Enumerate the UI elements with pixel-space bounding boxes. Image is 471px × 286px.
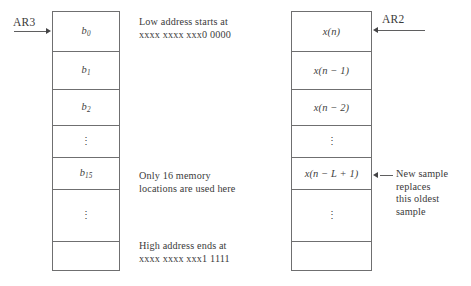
memory-cell-label: b1 — [82, 64, 91, 77]
memory-cell-ellipsis-lower: ⋮ — [53, 190, 119, 242]
memory-cell-b15: b15 — [53, 158, 119, 190]
pointer-label-ar3: AR3 — [13, 16, 35, 28]
pointer-label-ar2: AR2 — [382, 13, 404, 25]
vertical-ellipsis-icon: ⋮ — [81, 211, 91, 218]
memory-cell-subscript: 15 — [85, 172, 92, 180]
note-line: High address ends at — [139, 240, 230, 253]
memory-cell-b0: b0 — [53, 12, 119, 52]
memory-table-ar2: x(n) x(n − 1) x(n − 2) ⋮ x(n − L + 1) ⋮ — [291, 11, 372, 271]
sample-cell-x-n-minus-2: x(n − 2) — [292, 90, 371, 126]
memory-cell-subscript: 2 — [87, 106, 91, 114]
memory-cell-subscript: 1 — [87, 69, 91, 77]
arrow-left-icon — [373, 172, 378, 178]
note-line: sample — [396, 206, 462, 219]
diagram-canvas: b0 b1 b2 ⋮ b15 ⋮ AR3 Low address starts … — [0, 0, 471, 286]
memory-cell-subscript: 0 — [87, 30, 91, 38]
sample-cell-x-n-minus-1: x(n − 1) — [292, 52, 371, 90]
memory-table-ar3: b0 b1 b2 ⋮ b15 ⋮ — [52, 11, 120, 271]
note-new-sample-replaces-oldest: New sample replaces this oldest sample — [396, 168, 462, 218]
memory-cell-label: b0 — [82, 25, 91, 38]
note-only-16-locations: Only 16 memory locations are used here — [139, 170, 236, 195]
note-line: Low address starts at — [139, 16, 231, 29]
memory-cell-label: b2 — [82, 101, 91, 114]
note-line: Only 16 memory — [139, 170, 236, 183]
vertical-ellipsis-icon: ⋮ — [327, 137, 337, 144]
arrow-right-icon — [46, 28, 51, 34]
note-line: xxxx xxxx xxx0 0000 — [139, 29, 231, 42]
pointer-leader-line-ar3 — [14, 31, 47, 32]
pointer-leader-line-ar2 — [378, 30, 425, 31]
vertical-ellipsis-icon: ⋮ — [81, 137, 91, 144]
note-high-address: High address ends at xxxx xxxx xxx1 1111 — [139, 240, 230, 265]
note-line: xxxx xxxx xxx1 1111 — [139, 253, 230, 266]
vertical-ellipsis-icon: ⋮ — [327, 211, 337, 218]
note-line: this oldest — [396, 193, 462, 206]
memory-cell-label: b15 — [80, 167, 93, 180]
note-line: replaces — [396, 181, 462, 194]
sample-cell-x-n: x(n) — [292, 12, 371, 52]
sample-cell-empty — [292, 242, 371, 270]
memory-cell-b2: b2 — [53, 90, 119, 126]
sample-cell-x-n-minus-l-plus-1: x(n − L + 1) — [292, 158, 371, 190]
sample-cell-ellipsis-upper: ⋮ — [292, 126, 371, 158]
arrow-left-icon — [373, 27, 378, 33]
memory-cell-ellipsis-upper: ⋮ — [53, 126, 119, 158]
note-line: locations are used here — [139, 183, 236, 196]
note-low-address: Low address starts at xxxx xxxx xxx0 000… — [139, 16, 231, 41]
sample-cell-ellipsis-lower: ⋮ — [292, 190, 371, 242]
note-line: New sample — [396, 168, 462, 181]
memory-cell-empty — [53, 242, 119, 270]
note-leader-line-new-sample — [380, 175, 393, 176]
memory-cell-b1: b1 — [53, 52, 119, 90]
